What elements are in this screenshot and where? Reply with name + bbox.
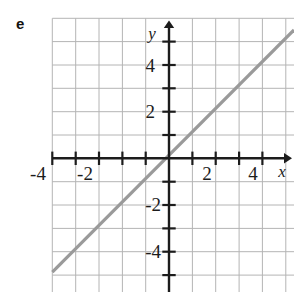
y-tick-label-2: 2 — [146, 101, 156, 122]
y-axis-arrow-icon — [164, 21, 174, 29]
x-tick-label-2: 2 — [202, 163, 212, 184]
x-tick-label-4: 4 — [248, 163, 258, 184]
coordinate-plane: -4 -2 2 4 4 2 -2 -4 y x — [0, 0, 294, 292]
x-axis-label: x — [277, 162, 286, 181]
y-axis-label: y — [146, 24, 156, 43]
x-tick-label--4: -4 — [30, 163, 46, 184]
figure-container: e — [0, 0, 294, 292]
y-tick-label--2: -2 — [145, 194, 161, 215]
x-tick-label--2: -2 — [77, 163, 93, 184]
y-tick-label-4: 4 — [146, 55, 156, 76]
graph-svg: -4 -2 2 4 4 2 -2 -4 y x — [0, 0, 294, 292]
data-line-y-equals-x — [52, 30, 294, 272]
y-tick-label--4: -4 — [145, 241, 161, 262]
